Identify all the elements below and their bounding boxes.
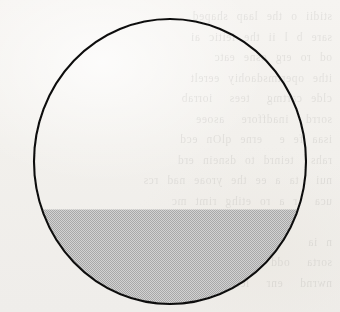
geometry-figure-svg [0,0,340,312]
shaded-lower-segment [20,210,320,312]
figure-container: stidii o the laap shaped sare b l ii the… [0,0,340,312]
